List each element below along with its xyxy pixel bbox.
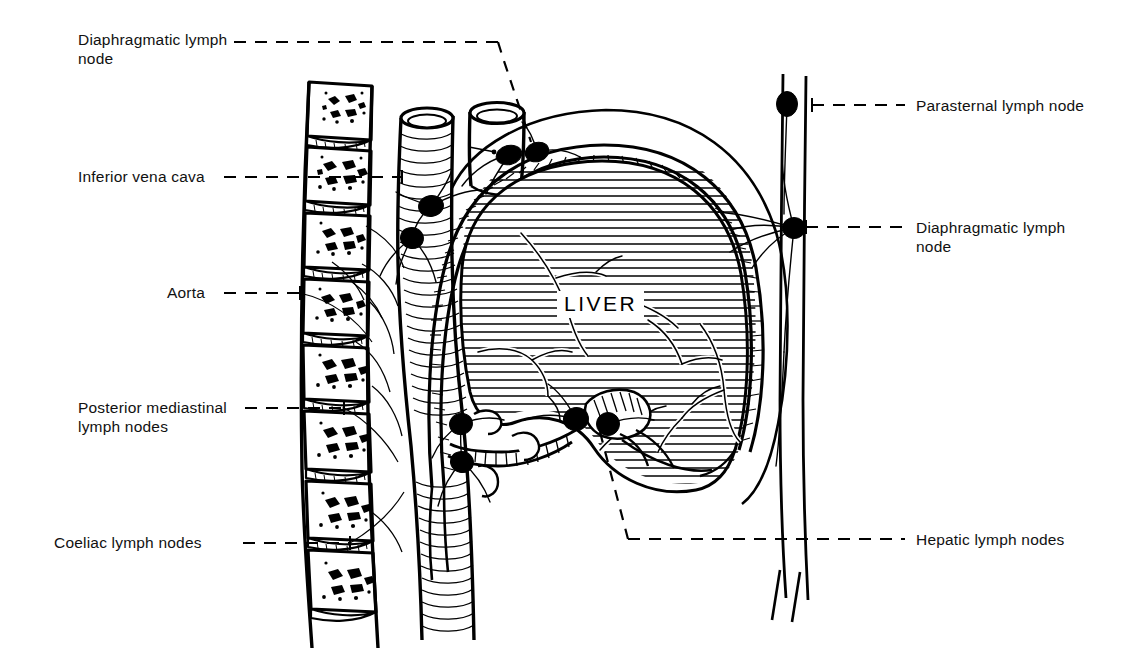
vertebra-body	[304, 213, 370, 270]
vertebra-body	[304, 411, 371, 472]
label-aorta: Aorta	[167, 283, 205, 302]
label-diaphragmatic-lymph-node-upper: Diaphragmatic lymph node	[78, 30, 227, 68]
liver-label: LIVER	[557, 291, 644, 318]
label-posterior-mediastinal-lymph-nodes: Posterior mediastinal lymph nodes	[78, 398, 227, 436]
liver-outline	[460, 161, 760, 492]
vertebra-body	[303, 345, 369, 402]
label-inferior-vena-cava: Inferior vena cava	[78, 167, 205, 186]
inferior-vena-cava-tube	[398, 108, 474, 640]
vertebral-column	[301, 82, 378, 648]
label-coeliac-lymph-nodes: Coeliac lymph nodes	[54, 533, 202, 552]
label-hepatic-lymph-nodes: Hepatic lymph nodes	[916, 530, 1065, 549]
vertebra-body	[307, 82, 372, 140]
label-diaphragmatic-lymph-node-right: Diaphragmatic lymph node	[916, 218, 1065, 256]
anatomy-figure: LIVER Diaphragmatic lymph node Inferior …	[0, 0, 1130, 662]
vertebra-body	[308, 550, 376, 612]
leader-diaphragmatic-upper-bend	[498, 42, 531, 142]
node-hepatic-porta-right	[597, 413, 620, 436]
label-parasternal-lymph-node: Parasternal lymph node	[916, 96, 1084, 115]
vertebra-body	[306, 481, 373, 541]
node-diaphragmatic-right	[783, 218, 806, 239]
node-parasternal	[777, 92, 798, 117]
